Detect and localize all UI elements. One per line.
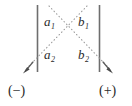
label-b1-subscript: 1 (85, 22, 89, 31)
polarity-positive: (+) (99, 84, 116, 98)
label-b1: b1 (78, 15, 89, 28)
polarity-negative: (−) (8, 84, 25, 98)
label-a1-base: a (44, 14, 51, 29)
label-a2-base: a (44, 47, 51, 62)
label-a1-subscript: 1 (51, 22, 55, 31)
label-b2-base: b (78, 47, 85, 62)
label-a2: a2 (44, 48, 55, 61)
label-a1: a1 (44, 15, 55, 28)
label-b2-subscript: 2 (85, 55, 89, 64)
label-a2-subscript: 2 (51, 55, 55, 64)
label-b1-base: b (78, 14, 85, 29)
diagram-figure: a1 b1 a2 b2 (−) (+) (0, 0, 132, 106)
label-b2: b2 (78, 48, 89, 61)
